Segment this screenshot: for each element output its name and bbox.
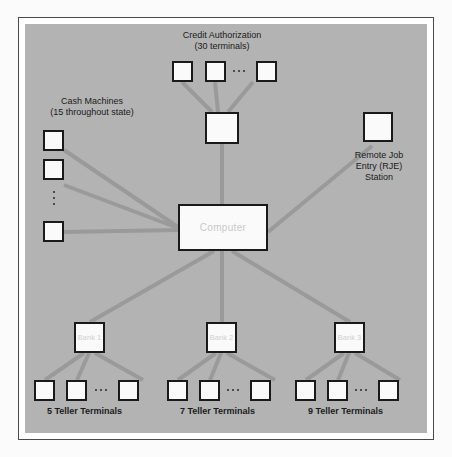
rje-station-node[interactable] <box>363 112 393 142</box>
credit-terminal-1[interactable] <box>172 61 193 82</box>
bank-1-teller-1[interactable] <box>34 380 55 401</box>
cash-machine-3[interactable] <box>43 221 64 242</box>
bank-2-tellers-label: 7 Teller Terminals <box>155 406 280 417</box>
bank-2-tellers-ellipsis <box>227 389 239 391</box>
bank-2-teller-1[interactable] <box>167 380 188 401</box>
bank-2-teller-2[interactable] <box>199 380 220 401</box>
bank-3-tellers-ellipsis <box>355 389 367 391</box>
credit-authorization-label: Credit Authorization (30 terminals) <box>150 30 294 52</box>
credit-terminals-ellipsis <box>233 70 245 72</box>
bank-2-teller-3[interactable] <box>250 380 271 401</box>
credit-concentrator[interactable] <box>205 112 239 144</box>
bank-3-teller-2[interactable] <box>327 380 348 401</box>
bank-3-teller-1[interactable] <box>295 380 316 401</box>
bank-1-tellers-ellipsis <box>95 389 107 391</box>
bank-node-3[interactable]: Bank 3 <box>334 322 365 353</box>
bank-node-2[interactable]: Bank 2 <box>206 322 237 353</box>
central-computer-node[interactable]: Computer <box>178 204 268 251</box>
bank-1-teller-2[interactable] <box>66 380 87 401</box>
cash-machine-1[interactable] <box>43 130 64 151</box>
bank-1-teller-3[interactable] <box>118 380 139 401</box>
cash-machines-ellipsis <box>53 191 55 205</box>
cash-machines-label: Cash Machines (15 throughout state) <box>26 96 158 118</box>
bank-node-1[interactable]: Bank 1 <box>74 322 105 353</box>
bank-1-tellers-label: 5 Teller Terminals <box>22 406 147 417</box>
bank-3-teller-3[interactable] <box>378 380 399 401</box>
credit-terminal-3[interactable] <box>256 61 277 82</box>
credit-terminal-2[interactable] <box>205 61 226 82</box>
bank-3-tellers-label: 9 Teller Terminals <box>283 406 408 417</box>
rje-station-label: Remote Job Entry (RJE) Station <box>344 150 414 183</box>
cash-machine-2[interactable] <box>43 159 64 180</box>
figure-canvas: Credit Authorization (30 terminals) Cash… <box>0 0 452 457</box>
